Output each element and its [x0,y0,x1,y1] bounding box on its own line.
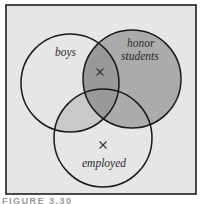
honor-label: honor [127,37,155,49]
venn-diagram: boys honor students employed [0,0,202,204]
figure-caption: FIGURE 3.30 [2,197,73,204]
employed-label: employed [82,157,126,170]
boys-label: boys [55,46,77,59]
students-label: students [121,50,159,62]
